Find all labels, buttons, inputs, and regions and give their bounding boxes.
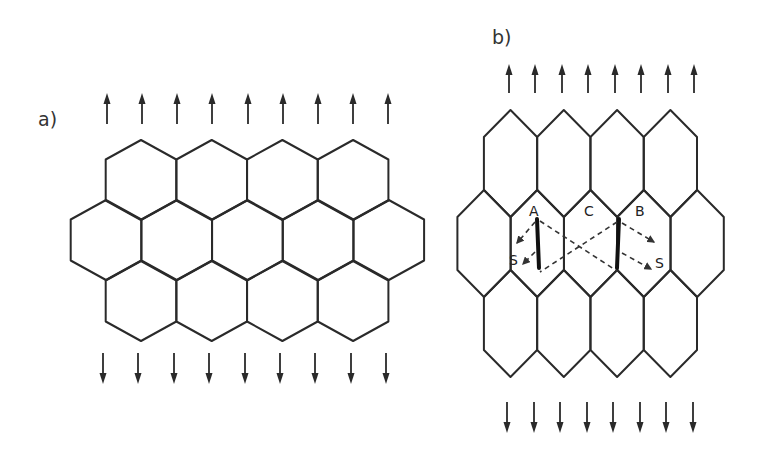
panel-b-bottom-arrow-down-icon	[637, 402, 644, 433]
panel-a: a)	[38, 93, 424, 384]
panel-a-label: a)	[38, 108, 57, 130]
panel-a-top-arrow-up-icon	[139, 93, 146, 124]
dashed-arrow-b-lower	[622, 253, 651, 269]
panel-a-top-arrow-up-icon	[385, 93, 392, 124]
panel-a-top-arrows	[104, 93, 392, 124]
panel-b-bottom-arrow-down-icon	[504, 402, 511, 433]
panel-b-top-arrow-up-icon	[638, 64, 645, 93]
panel-b-bottom-arrow-down-icon	[584, 402, 591, 433]
panel-a-top-arrow-up-icon	[350, 93, 357, 124]
panel-a-grain-r1-c1	[106, 140, 177, 220]
panel-a-bottom-arrows	[100, 353, 390, 384]
panel-a-bottom-arrow-down-icon	[206, 353, 213, 384]
crack-boundary-c-b	[617, 219, 619, 268]
panel-a-bottom-arrow-down-icon	[277, 353, 284, 384]
panel-b-label: b)	[492, 26, 511, 48]
panel-b-grain-r1-c3	[591, 110, 644, 217]
panel-a-grain-r2-c1	[71, 200, 142, 280]
panel-b-grain-r1-c1	[484, 110, 537, 217]
crack-boundary-a-c	[537, 219, 539, 268]
panel-a-bottom-arrow-down-icon	[171, 353, 178, 384]
panel-b-grain-r2-c5	[671, 190, 724, 297]
panel-a-grain-r1-c3	[247, 140, 318, 220]
panel-a-top-arrow-up-icon	[245, 93, 252, 124]
panel-b-grain-r3-c1	[484, 270, 537, 377]
panel-a-bottom-arrow-down-icon	[242, 353, 249, 384]
panel-a-bottom-arrow-down-icon	[135, 353, 142, 384]
dashed-arrow-a-upper	[517, 222, 535, 243]
grain-label-s-right: S	[655, 255, 664, 271]
panel-b-grain-r1-c2	[537, 110, 590, 217]
panel-b-grain-r1-c4	[644, 110, 697, 217]
panel-b: b) A C B S S	[457, 26, 723, 433]
panel-a-hex-grid	[71, 140, 424, 341]
panel-a-top-arrow-up-icon	[174, 93, 181, 124]
panel-a-bottom-arrow-down-icon	[100, 353, 107, 384]
panel-a-top-arrow-up-icon	[209, 93, 216, 124]
panel-b-top-arrow-up-icon	[532, 64, 539, 93]
panel-b-bottom-arrows	[504, 402, 697, 433]
grain-label-b: B	[635, 203, 645, 219]
panel-b-grain-r3-c2	[537, 270, 590, 377]
panel-b-bottom-arrow-down-icon	[610, 402, 617, 433]
panel-a-grain-r1-c4	[318, 140, 389, 220]
panel-a-top-arrow-up-icon	[315, 93, 322, 124]
grain-label-a: A	[529, 203, 539, 219]
grain-structure-figure: a) b) A C B S S	[0, 0, 762, 453]
panel-b-top-arrow-up-icon	[612, 64, 619, 93]
dashed-slip-line-c-2	[540, 222, 617, 272]
panel-b-hex-grid	[457, 110, 723, 377]
dashed-arrow-a-lower	[523, 252, 535, 264]
panel-b-top-arrow-up-icon	[559, 64, 566, 93]
panel-b-top-arrow-up-icon	[665, 64, 672, 93]
panel-b-grain-r3-c3	[591, 270, 644, 377]
panel-b-bottom-arrow-down-icon	[531, 402, 538, 433]
panel-a-bottom-arrow-down-icon	[312, 353, 319, 384]
panel-b-grain-r2-c1	[457, 190, 510, 297]
grain-label-c: C	[584, 203, 594, 219]
panel-a-top-arrow-up-icon	[280, 93, 287, 124]
dashed-arrow-b-upper	[622, 223, 654, 242]
panel-b-top-arrows	[506, 64, 698, 93]
panel-b-top-arrow-up-icon	[506, 64, 513, 93]
panel-b-bottom-arrow-down-icon	[663, 402, 670, 433]
dashed-slip-line-c-1	[540, 221, 617, 271]
panel-a-bottom-arrow-down-icon	[348, 353, 355, 384]
panel-b-top-arrow-up-icon	[585, 64, 592, 93]
panel-a-bottom-arrow-down-icon	[383, 353, 390, 384]
panel-b-bottom-arrow-down-icon	[557, 402, 564, 433]
grain-label-s-left: S	[509, 252, 518, 268]
panel-b-top-arrow-up-icon	[691, 64, 698, 93]
panel-b-bottom-arrow-down-icon	[690, 402, 697, 433]
panel-a-grain-r1-c2	[176, 140, 247, 220]
panel-a-top-arrow-up-icon	[104, 93, 111, 124]
panel-b-grain-r3-c4	[644, 270, 697, 377]
